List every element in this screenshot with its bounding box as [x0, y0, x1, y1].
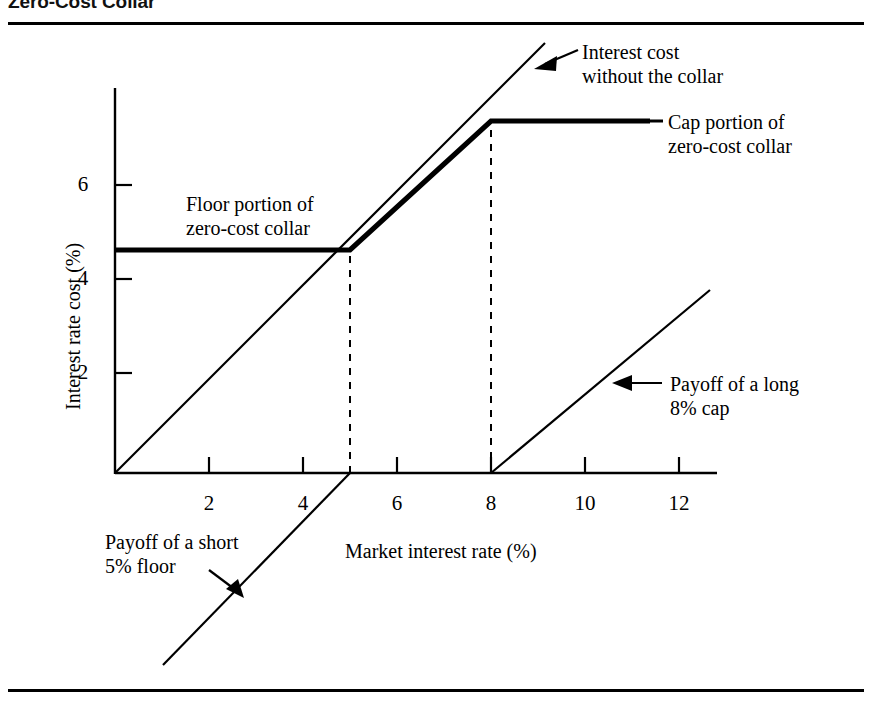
annotation-interest-cost-without-collar: Interest cost without the collar [582, 40, 723, 89]
arrow-head-interest-cost [534, 56, 557, 71]
chart-canvas [0, 0, 870, 716]
x-axis-title: Market interest rate (%) [345, 540, 537, 563]
annotation-cap-portion-line1: Cap portion of [668, 110, 792, 134]
y-tick-label-6: 6 [70, 172, 96, 197]
figure-container: Zero-Cost Collar [0, 0, 870, 716]
series-interest-cost-without-collar [115, 43, 545, 473]
x-tick-label-2: 2 [196, 491, 222, 516]
x-tick-label-6: 6 [384, 491, 410, 516]
x-tick-label-10: 10 [568, 491, 602, 516]
x-tick-label-4: 4 [290, 491, 316, 516]
annotation-cap-portion-line2: zero-cost collar [668, 134, 792, 158]
annotation-floor-portion-line2: zero-cost collar [186, 216, 314, 240]
annotation-floor-portion-line1: Floor portion of [186, 192, 314, 216]
arrow-head-short-floor [226, 579, 244, 598]
arrow-head-long-cap [612, 375, 632, 391]
annotation-short-floor-line1: Payoff of a short [105, 530, 239, 554]
annotation-interest-cost-line2: without the collar [582, 64, 723, 88]
annotation-long-cap-line2: 8% cap [670, 396, 799, 420]
annotation-short-floor-line2: 5% floor [105, 554, 239, 578]
annotation-cap-portion: Cap portion of zero-cost collar [668, 110, 792, 159]
x-tick-label-12: 12 [662, 491, 696, 516]
annotation-floor-portion: Floor portion of zero-cost collar [186, 192, 314, 241]
y-axis-title: Interest rate cost (%) [62, 243, 85, 410]
annotation-payoff-long-cap: Payoff of a long 8% cap [670, 372, 799, 421]
annotation-long-cap-line1: Payoff of a long [670, 372, 799, 396]
annotation-payoff-short-floor: Payoff of a short 5% floor [105, 530, 239, 579]
x-tick-label-8: 8 [478, 491, 504, 516]
annotation-interest-cost-line1: Interest cost [582, 40, 723, 64]
